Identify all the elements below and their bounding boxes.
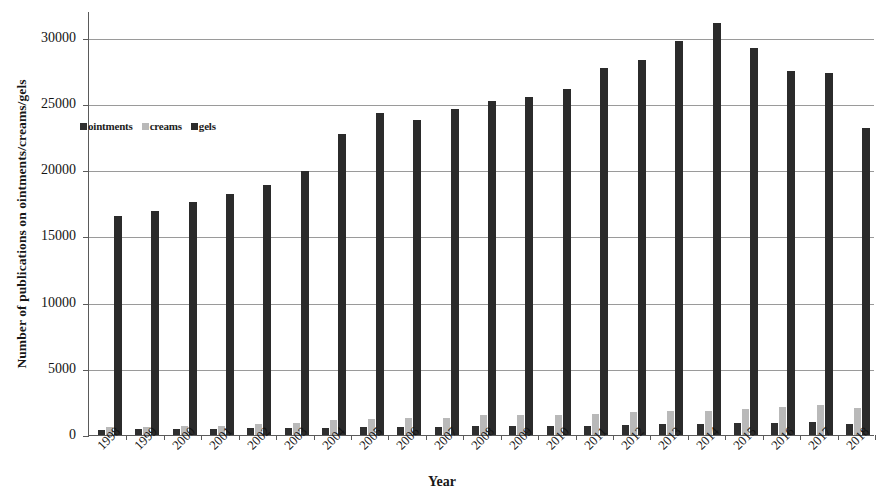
x-tick-mark: [650, 435, 651, 440]
bar-gels-2009: [525, 97, 533, 435]
bar-gels-2012: [638, 60, 646, 435]
x-tick-mark: [613, 435, 614, 440]
bar-gels-2018: [862, 128, 870, 435]
bar-group: [285, 12, 309, 435]
bar-series-container: [89, 12, 874, 435]
bar-group: [509, 12, 533, 435]
bar-group: [809, 12, 833, 435]
legend-label: creams: [150, 120, 182, 132]
bar-group: [135, 12, 159, 435]
bar-gels-2017: [825, 73, 833, 435]
bar-gels-2001: [226, 194, 234, 435]
plot-area: [88, 12, 874, 436]
bar-gels-2013: [675, 41, 683, 435]
x-tick-mark: [426, 435, 427, 440]
bar-group: [771, 12, 795, 435]
bar-group: [697, 12, 721, 435]
legend-item-ointments: ointments: [80, 120, 133, 132]
x-tick-mark: [351, 435, 352, 440]
legend-label: gels: [199, 120, 216, 132]
x-tick-mark: [725, 435, 726, 440]
bar-gels-2016: [787, 71, 795, 435]
bar-group: [397, 12, 421, 435]
bar-group: [435, 12, 459, 435]
x-tick-mark: [576, 435, 577, 440]
x-tick-mark: [239, 435, 240, 440]
x-tick-mark: [838, 435, 839, 440]
bar-gels-2007: [451, 109, 459, 435]
bar-gels-2010: [563, 89, 571, 435]
bar-gels-2006: [413, 120, 421, 435]
legend-label: ointments: [88, 120, 133, 132]
bar-group: [659, 12, 683, 435]
bar-gels-2011: [600, 68, 608, 435]
legend-swatch-ointments-icon: [80, 123, 87, 130]
bar-group: [622, 12, 646, 435]
x-tick-mark: [688, 435, 689, 440]
bar-group: [247, 12, 271, 435]
x-tick-mark: [388, 435, 389, 440]
bar-group: [846, 12, 870, 435]
legend-swatch-gels-icon: [191, 123, 198, 130]
x-tick-mark: [164, 435, 165, 440]
x-tick-mark: [314, 435, 315, 440]
bar-group: [547, 12, 571, 435]
bar-gels-1998: [114, 216, 122, 435]
bar-gels-2002: [263, 185, 271, 435]
bar-group: [322, 12, 346, 435]
bar-group: [98, 12, 122, 435]
x-tick-mark: [276, 435, 277, 440]
x-tick-mark: [875, 435, 876, 440]
bar-gels-1999: [151, 211, 159, 435]
y-tick-label: 25000: [0, 96, 76, 112]
legend-item-creams: creams: [142, 120, 182, 132]
y-tick-label: 20000: [0, 162, 76, 178]
bar-group: [584, 12, 608, 435]
chart-legend: ointmentscreamsgels: [80, 120, 216, 132]
x-tick-mark: [763, 435, 764, 440]
y-tick-label: 5000: [0, 361, 76, 377]
x-tick-mark: [501, 435, 502, 440]
y-tick-label: 10000: [0, 295, 76, 311]
legend-swatch-creams-icon: [142, 123, 149, 130]
bar-gels-2000: [189, 202, 197, 435]
bar-gels-2003: [301, 171, 309, 435]
bar-chart: Number of publications on ointments/crea…: [0, 0, 884, 501]
x-tick-mark: [538, 435, 539, 440]
bar-group: [734, 12, 758, 435]
legend-item-gels: gels: [191, 120, 216, 132]
bar-group: [360, 12, 384, 435]
y-tick-mark: [83, 436, 89, 437]
x-tick-mark: [126, 435, 127, 440]
x-tick-mark: [201, 435, 202, 440]
bar-gels-2004: [338, 134, 346, 435]
y-tick-label: 0: [0, 427, 76, 443]
x-tick-mark: [800, 435, 801, 440]
bar-gels-2005: [376, 113, 384, 435]
x-tick-mark: [463, 435, 464, 440]
bar-gels-2015: [750, 48, 758, 435]
bar-group: [472, 12, 496, 435]
bar-gels-2014: [713, 23, 721, 435]
y-tick-label: 15000: [0, 228, 76, 244]
bar-group: [210, 12, 234, 435]
bar-group: [173, 12, 197, 435]
y-tick-label: 30000: [0, 30, 76, 46]
bar-gels-2008: [488, 101, 496, 435]
x-axis-title: Year: [0, 474, 884, 490]
